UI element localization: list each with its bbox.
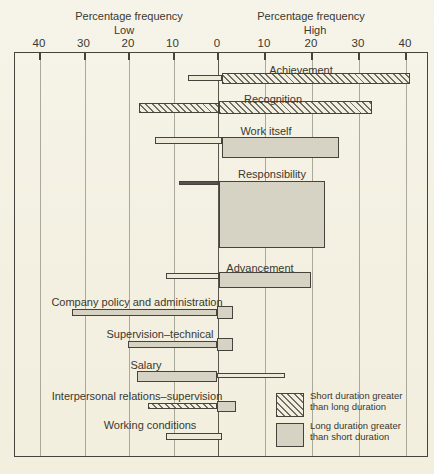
bar-segment-gray	[72, 309, 217, 316]
bar-segment-outline	[166, 273, 220, 279]
axis-tick-label: 30	[77, 37, 90, 49]
bar-segment-hatched	[148, 403, 217, 409]
bar-segment-outline	[188, 75, 222, 81]
bar-segment-outline	[166, 433, 222, 440]
axis-tick	[311, 53, 313, 60]
axis-tick-label: 10	[258, 37, 271, 49]
factor-label: Advancement	[226, 262, 293, 274]
factor-label: Recognition	[244, 93, 302, 105]
bar-segment-gray	[217, 401, 236, 412]
figure-herzberg-satisfiers-dissatisfiers: Percentage frequency Low Percentage freq…	[0, 0, 434, 474]
factor-label: Company policy and administration	[51, 296, 222, 308]
left-axis-title: Percentage frequency	[75, 10, 183, 22]
factor-label: Working conditions	[104, 419, 197, 431]
factor-label: Responsibility	[238, 168, 306, 180]
axis-tick	[405, 53, 407, 60]
bar-segment-gray	[219, 181, 325, 248]
axis-tick-label: 20	[305, 37, 318, 49]
factor-label: Work itself	[240, 125, 291, 137]
axis-tick	[217, 53, 219, 60]
legend-label: Short duration greater than long duratio…	[310, 391, 410, 413]
bar-segment-gray	[217, 338, 233, 351]
axis-tick-label: 10	[166, 37, 179, 49]
axis-tick	[358, 53, 360, 60]
bar-segment-gray	[128, 341, 217, 348]
factor-label: Supervision–technical	[106, 328, 213, 340]
right-axis-title: Percentage frequency	[257, 10, 365, 22]
bar-segment-gray	[137, 371, 217, 382]
axis-tick	[84, 53, 86, 60]
gridline-40	[40, 53, 41, 456]
bar-segment-dark	[179, 181, 219, 185]
axis-tick-label: 40	[399, 37, 412, 49]
legend-label: Long duration greater than short duratio…	[310, 421, 410, 443]
right-axis-subtitle: High	[304, 24, 327, 36]
bar-segment-gray	[222, 137, 340, 158]
axis-tick	[39, 53, 41, 60]
factor-label: Achievement	[269, 64, 333, 76]
factor-label: Salary	[130, 359, 161, 371]
left-axis-subtitle: Low	[114, 24, 134, 36]
legend-swatch-gray	[276, 423, 304, 447]
axis-tick-label: 40	[33, 37, 46, 49]
axis-tick	[128, 53, 130, 60]
axis-tick-label: 0	[214, 37, 220, 49]
bar-segment-outline	[155, 137, 222, 144]
axis-tick	[264, 53, 266, 60]
bar-segment-hatched	[139, 103, 219, 113]
axis-tick-label: 20	[122, 37, 135, 49]
legend-swatch-hatched	[276, 393, 304, 417]
bar-segment-gray	[219, 272, 311, 288]
bar-segment-outline	[217, 373, 285, 378]
axis-tick-label: 30	[352, 37, 365, 49]
factor-label: Interpersonal relations–supervision	[52, 390, 223, 402]
axis-tick	[173, 53, 175, 60]
